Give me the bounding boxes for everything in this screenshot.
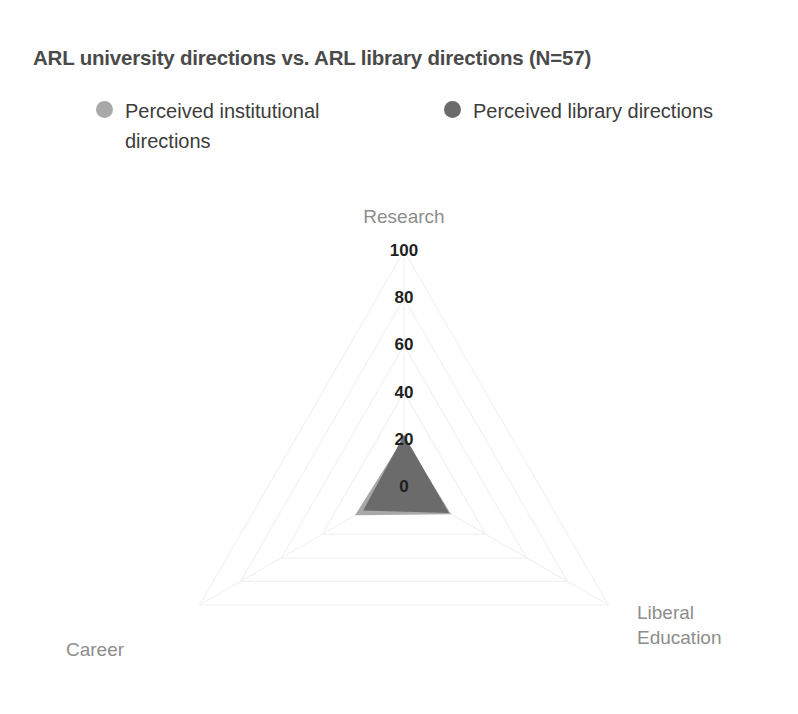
- tick-label-60: 60: [395, 335, 414, 355]
- tick-label-100: 100: [390, 241, 418, 261]
- tick-label-80: 80: [395, 288, 414, 308]
- axis-label-liberal-line2: Education: [637, 625, 722, 650]
- axis-label-career: Career: [66, 637, 124, 662]
- axis-label-research: Research: [363, 204, 444, 229]
- tick-label-0: 0: [399, 477, 408, 497]
- axis-label-liberal-education: Liberal Education: [637, 600, 722, 650]
- axis-label-liberal-line1: Liberal: [637, 600, 722, 625]
- tick-label-20: 20: [395, 430, 414, 450]
- tick-label-40: 40: [395, 383, 414, 403]
